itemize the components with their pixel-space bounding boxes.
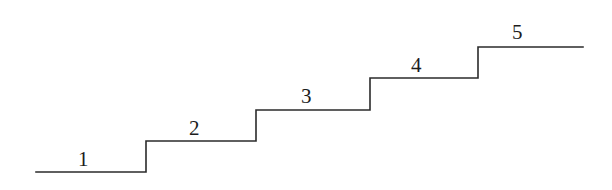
step-label-3: 3 xyxy=(301,86,312,107)
staircase-figure: 1 2 3 4 5 xyxy=(0,0,612,190)
step-label-2: 2 xyxy=(189,118,200,139)
step-label-4: 4 xyxy=(411,55,422,76)
step-label-5: 5 xyxy=(512,22,523,43)
step-label-1: 1 xyxy=(78,149,89,170)
